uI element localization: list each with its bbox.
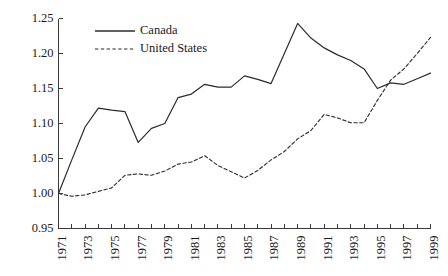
line-chart: 0.951.001.051.101.151.201.25 19711973197… [0, 0, 448, 276]
series-line-united-states [59, 37, 431, 196]
x-tick-label: 1973 [81, 236, 95, 261]
chart-figure: 0.951.001.051.101.151.201.25 19711973197… [0, 0, 448, 276]
x-tick-label: 1981 [188, 236, 202, 261]
y-tick-label: 1.00 [32, 186, 54, 200]
y-axis: 0.951.001.051.101.151.201.25 [32, 11, 63, 235]
x-tick-label: 1971 [55, 236, 69, 261]
x-tick-label: 1987 [267, 236, 281, 261]
x-tick-label: 1979 [161, 236, 175, 261]
x-tick-label: 1993 [347, 236, 361, 261]
x-tick-label: 1977 [135, 236, 149, 261]
y-tick-label: 1.05 [32, 151, 54, 165]
y-tick-label: 0.95 [32, 221, 54, 235]
x-tick-label: 1989 [294, 236, 308, 261]
y-tick-label: 1.15 [32, 81, 54, 95]
y-tick-label: 1.25 [32, 11, 54, 25]
x-tick-label: 1983 [214, 236, 228, 261]
x-tick-label: 1985 [241, 236, 255, 261]
legend-label-united-states: United States [140, 41, 207, 55]
legend-label-canada: Canada [140, 23, 178, 37]
x-tick-label: 1991 [321, 236, 335, 261]
x-tick-label: 1999 [427, 236, 441, 261]
x-axis: 1971197319751977197919811983198519871989… [55, 224, 441, 261]
chart-legend: CanadaUnited States [95, 23, 207, 55]
x-tick-label: 1997 [400, 236, 414, 261]
x-tick-label: 1975 [108, 236, 122, 261]
y-tick-label: 1.20 [32, 46, 54, 60]
x-tick-label: 1995 [374, 236, 388, 261]
y-tick-label: 1.10 [32, 116, 54, 130]
